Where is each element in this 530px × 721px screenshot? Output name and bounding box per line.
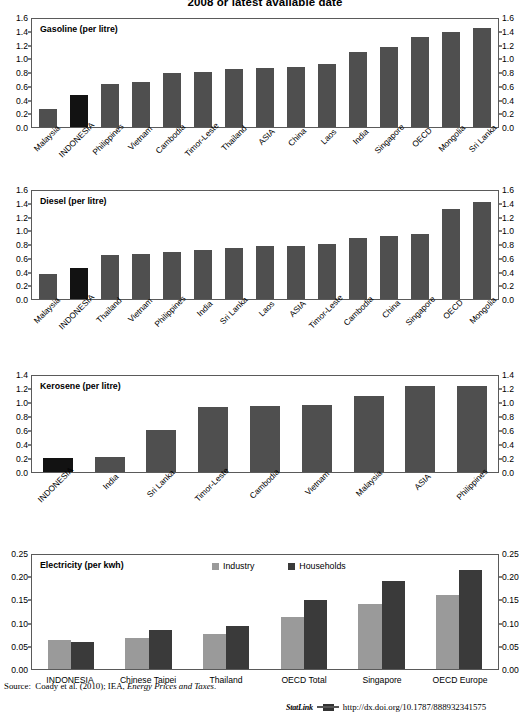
bar-slot — [343, 19, 374, 127]
electricity-ytick-right: 0.00 — [502, 666, 519, 675]
bar-industry — [125, 638, 148, 669]
bar-industry — [203, 634, 226, 669]
bar-slot — [187, 191, 218, 299]
bar-slot — [312, 19, 343, 127]
gasoline-tickmark — [499, 86, 502, 87]
x-axis-label: Laos — [312, 130, 343, 176]
source-note: Source: Coady et al. (2010); IEA, Energy… — [4, 681, 216, 691]
bar-slot — [94, 19, 125, 127]
legend-label-industry: Industry — [223, 561, 254, 571]
bar-slot — [187, 555, 265, 669]
bar-slot — [63, 191, 94, 299]
diesel-tickmark — [499, 286, 502, 287]
kerosene-ytick-left: 0.2 — [16, 455, 28, 464]
bar — [95, 457, 125, 472]
gasoline-tickmark — [499, 45, 502, 46]
x-axis-label: Timor-Leste — [187, 475, 239, 525]
electricity-tickmark — [499, 646, 502, 647]
bar — [163, 252, 181, 299]
diesel-ytick-right: 1.2 — [502, 213, 514, 222]
diesel-ytick-left: 0.6 — [16, 254, 28, 263]
x-axis-label-text: Singapore — [343, 675, 421, 685]
statlink[interactable]: StatLink http://dx.doi.org/10.1787/88893… — [286, 702, 486, 712]
bar — [194, 72, 212, 127]
x-axis-label: Malaysia — [343, 475, 395, 525]
bar — [380, 236, 398, 299]
x-axis-label-text: OECD Total — [265, 675, 343, 685]
gasoline-ytick-left: 1.0 — [16, 55, 28, 64]
diesel-tickmark — [499, 217, 502, 218]
gasoline-ytick-left: 0.4 — [16, 96, 28, 105]
bar-slot — [32, 191, 63, 299]
x-axis-label: Sri Lanka — [135, 475, 187, 525]
bar-slot — [291, 376, 343, 472]
electricity-tickmark — [499, 623, 502, 624]
gasoline-ytick-left: 0.2 — [16, 110, 28, 119]
bar — [287, 67, 305, 127]
x-axis-label: Sri Lanka — [468, 130, 499, 176]
bar — [225, 248, 243, 299]
bar-households — [304, 600, 327, 669]
electricity-ytick-right: 0.05 — [502, 643, 519, 652]
bar-slot — [312, 191, 343, 299]
panel-kerosene: 0.00.20.40.60.81.01.21.4 0.00.20.40.60.8… — [0, 375, 530, 473]
bar-industry — [281, 617, 304, 669]
gasoline-x-labels: MalaysiaINDONESIAPhilippinesVietnamCambo… — [31, 130, 499, 176]
bar — [380, 47, 398, 127]
electricity-ytick-right: 0.20 — [502, 573, 519, 582]
bar — [405, 386, 435, 472]
bar-industry — [358, 604, 381, 669]
x-axis-label: China — [281, 130, 312, 176]
gasoline-tickmark — [499, 73, 502, 74]
kerosene-panel-label: Kerosene (per litre) — [40, 381, 121, 391]
bar — [146, 430, 176, 472]
kerosene-ytick-left: 0.0 — [16, 469, 28, 478]
kerosene-y-axis-right: 0.00.20.40.60.81.01.21.4 — [502, 375, 530, 473]
legend-swatch-households-icon — [288, 563, 295, 570]
bar-group — [110, 555, 188, 669]
x-axis-label: Timor-Leste — [312, 302, 343, 348]
diesel-ytick-right: 0.4 — [502, 268, 514, 277]
bar-slot — [394, 376, 446, 472]
bar — [302, 405, 332, 472]
bar-slot — [405, 19, 436, 127]
bar-slot — [32, 19, 63, 127]
x-axis-label: Vietnam — [125, 302, 156, 348]
gasoline-ytick-right: 1.4 — [502, 27, 514, 36]
bar-slot — [343, 555, 421, 669]
bar — [473, 28, 491, 127]
legend-swatch-industry-icon — [212, 563, 219, 570]
bar-households — [382, 581, 405, 669]
gasoline-ytick-right: 0.4 — [502, 96, 514, 105]
gasoline-ytick-right: 0.6 — [502, 82, 514, 91]
x-axis-label-text: China — [380, 298, 402, 320]
statlink-url[interactable]: http://dx.doi.org/10.1787/888932341575 — [343, 702, 486, 712]
kerosene-tickmark — [499, 403, 502, 404]
bar-slot — [467, 19, 498, 127]
x-axis-label: Thailand — [218, 130, 249, 176]
diesel-x-labels: MalaysiaINDONESIAThailandVietnamPhilippi… — [31, 302, 499, 348]
x-axis-label-text: OECD Europe — [421, 675, 499, 685]
gasoline-tickmark — [499, 59, 502, 60]
kerosene-y-axis-left: 0.00.20.40.60.81.01.21.4 — [0, 375, 28, 473]
diesel-tickmark — [499, 231, 502, 232]
gasoline-ytick-left: 1.4 — [16, 27, 28, 36]
gasoline-tickmark — [499, 114, 502, 115]
diesel-ytick-left: 1.4 — [16, 199, 28, 208]
diesel-ytick-left: 0.8 — [16, 241, 28, 250]
bar — [132, 82, 150, 127]
bar — [256, 246, 274, 299]
kerosene-tickmark — [499, 445, 502, 446]
kerosene-ytick-left: 0.6 — [16, 427, 28, 436]
bar — [101, 84, 119, 127]
kerosene-tickmark — [499, 389, 502, 390]
x-axis-label: India — [343, 130, 374, 176]
x-axis-label: Timor-Leste — [187, 130, 218, 176]
bar-slot — [218, 19, 249, 127]
bar-slot — [125, 191, 156, 299]
x-axis-label: Philippines — [447, 475, 499, 525]
gasoline-ytick-left: 0.6 — [16, 82, 28, 91]
diesel-bars — [32, 191, 498, 299]
x-axis-label: Mongolia — [437, 130, 468, 176]
gasoline-y-axis-left: 0.00.20.40.60.81.01.21.41.6 — [0, 18, 28, 128]
